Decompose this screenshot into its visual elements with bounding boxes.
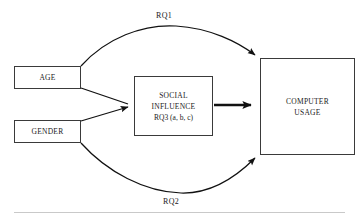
node-social-influence-rq3-label: RQ3 (a, b, c)	[154, 112, 193, 123]
edge-label-rq2: RQ2	[163, 197, 179, 206]
node-age-label: AGE	[39, 73, 55, 83]
edge-rq2-path	[81, 143, 255, 193]
edge-gender-to-social-path	[81, 107, 128, 121]
node-gender-label: GENDER	[32, 127, 64, 137]
edge-age-to-social-path	[81, 88, 128, 104]
edge-rq1-path	[81, 26, 255, 66]
edge-label-rq1: RQ1	[156, 11, 172, 20]
diagram-canvas: AGE GENDER SOCIAL INFLUENCE RQ3 (a, b, c…	[0, 0, 362, 219]
node-gender: GENDER	[14, 120, 81, 143]
node-social-influence-line2: INFLUENCE	[152, 101, 196, 112]
node-social-influence: SOCIAL INFLUENCE RQ3 (a, b, c)	[134, 76, 213, 136]
footer-divider	[14, 212, 345, 213]
node-computer-usage-line1: COMPUTER	[286, 96, 329, 107]
node-computer-usage-line2: USAGE	[294, 107, 320, 118]
node-age: AGE	[14, 66, 81, 89]
node-social-influence-line1: SOCIAL	[159, 90, 188, 101]
node-computer-usage: COMPUTER USAGE	[260, 58, 355, 155]
